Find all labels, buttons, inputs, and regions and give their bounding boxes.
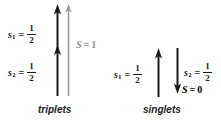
fraction-denominator: 2 [205,73,210,83]
singlet-total-spin-label: S=0 [182,84,202,95]
total-spin-symbol: S [182,84,188,95]
fraction-one-half: 1 2 [27,62,36,83]
total-spin-symbol: S [76,39,82,50]
singlet-spin-2-label: s2 = 1 2 [184,62,212,83]
fraction-numerator: 1 [29,24,34,34]
fraction-one-half: 1 2 [203,62,212,83]
equals-sign: = [18,67,24,78]
spin-subscript: 1 [118,73,122,81]
spin-1-arrow-up [54,4,61,50]
spin-diagram-figure: s1 = 1 2 s2 = 1 2 S=1 triplets s1 = 1 2 [0,0,221,124]
equals-sign: = [190,84,196,95]
fraction-numerator: 1 [29,62,34,72]
fraction-denominator: 2 [135,75,140,85]
fraction-numerator: 1 [135,64,140,74]
singlet-spin-2-arrow-down [174,48,181,94]
triplets-caption: triplets [38,104,71,115]
fraction-one-half: 1 2 [133,64,142,85]
equals-sign: = [84,39,90,50]
fraction-denominator: 2 [29,35,34,45]
fraction-numerator: 1 [205,62,210,72]
spin-2-arrow-up [54,45,61,96]
singlets-caption: singlets [143,104,181,115]
spin-subscript: 2 [12,71,16,79]
equals-sign: = [18,29,24,40]
fraction-one-half: 1 2 [27,24,36,45]
fraction-denominator: 2 [29,73,34,83]
spin-subscript: 2 [188,71,192,79]
triplet-spin-2-label: s2 = 1 2 [8,62,36,83]
equals-sign: = [194,67,200,78]
equals-sign: = [124,69,130,80]
triplet-spin-1-label: s1 = 1 2 [8,24,36,45]
total-spin-value: 0 [197,84,202,95]
singlet-spin-1-arrow-up [155,48,162,97]
singlet-spin-1-label: s1 = 1 2 [114,64,142,85]
triplet-total-spin-label: S=1 [76,39,96,50]
total-spin-arrow-up [65,4,71,96]
spin-subscript: 1 [12,33,16,41]
total-spin-value: 1 [91,39,96,50]
